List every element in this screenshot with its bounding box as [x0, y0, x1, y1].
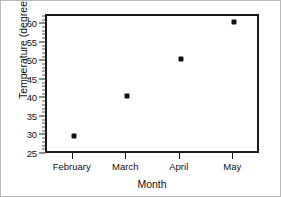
x-tick-label: March [112, 161, 138, 172]
y-tick-label: 55 [27, 36, 37, 47]
x-tick-label: May [223, 161, 241, 172]
data-point [178, 56, 183, 61]
x-tick-label: April [169, 161, 188, 172]
data-point [125, 93, 130, 98]
y-tick-label: 45 [27, 73, 37, 84]
data-point [232, 19, 237, 24]
x-tick-label: February [53, 161, 91, 172]
y-tick-label: 35 [27, 110, 37, 121]
data-point [71, 134, 76, 139]
x-axis: FebruaryMarchAprilMay Month [45, 153, 259, 197]
x-tick-mark [179, 153, 180, 159]
plot-area [47, 16, 257, 151]
y-tick-label: 50 [27, 55, 37, 66]
y-tick-label: 30 [27, 129, 37, 140]
x-tick-mark [232, 153, 233, 159]
x-tick-mark [125, 153, 126, 159]
chart-screenshot: Temperature (degrees F) 2530354045505560… [0, 0, 281, 197]
y-tick-label: 25 [27, 148, 37, 159]
x-axis-title: Month [45, 178, 259, 190]
y-axis: Temperature (degrees F) 2530354045505560 [1, 1, 45, 197]
y-tick-label: 60 [27, 18, 37, 29]
y-tick-label: 40 [27, 92, 37, 103]
plot-frame [45, 14, 259, 153]
x-tick-mark [72, 153, 73, 159]
